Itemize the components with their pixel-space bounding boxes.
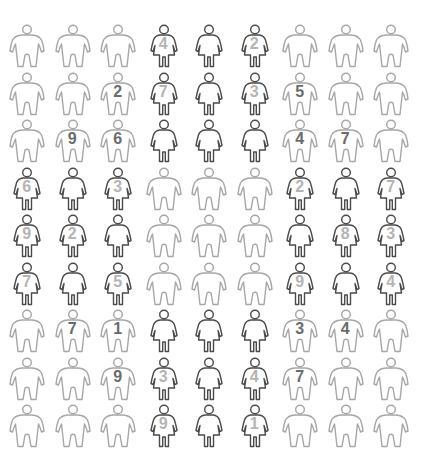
figure-number: 7: [4, 274, 50, 290]
female-figure-numbered: 6: [4, 165, 50, 213]
male-figure-numbered: 2: [95, 70, 141, 118]
female-figure-numbered: 4: [368, 260, 414, 308]
female-figure-numbered: 7: [368, 165, 414, 213]
figure-number: 6: [95, 131, 141, 147]
female-figure: [186, 307, 232, 355]
female-figure: [323, 165, 369, 213]
male-figure: [186, 165, 232, 213]
female-figure-numbered: 3: [368, 212, 414, 260]
male-figure: [4, 307, 50, 355]
male-figure: [50, 70, 96, 118]
male-figure: [323, 402, 369, 450]
male-figure: [277, 402, 323, 450]
female-figure: [95, 212, 141, 260]
male-figure: [4, 402, 50, 450]
female-figure-numbered: 7: [141, 70, 187, 118]
female-figure: [50, 260, 96, 308]
male-figure: [4, 355, 50, 403]
female-figure-numbered: 3: [95, 165, 141, 213]
figure-number: 8: [323, 226, 369, 242]
male-figure: [186, 212, 232, 260]
figure-number: 9: [50, 131, 96, 147]
figure-number: 3: [141, 369, 187, 385]
male-figure-numbered: 1: [95, 307, 141, 355]
male-figure-numbered: 4: [323, 307, 369, 355]
figure-number: 4: [277, 131, 323, 147]
female-figure-numbered: 4: [141, 22, 187, 70]
female-figure-numbered: 3: [232, 70, 278, 118]
male-figure-numbered: 7: [50, 307, 96, 355]
male-figure: [368, 307, 414, 355]
male-figure: [50, 355, 96, 403]
male-figure-numbered: 9: [50, 117, 96, 165]
male-figure: [323, 22, 369, 70]
male-figure-numbered: 4: [277, 117, 323, 165]
figure-number: 7: [323, 131, 369, 147]
male-figure: [4, 22, 50, 70]
female-figure: [186, 117, 232, 165]
female-figure-numbered: 2: [50, 212, 96, 260]
figure-number: 7: [50, 321, 96, 337]
female-figure-numbered: 2: [277, 165, 323, 213]
figure-number: 5: [95, 274, 141, 290]
male-figure: [232, 260, 278, 308]
male-figure: [186, 260, 232, 308]
female-figure: [186, 22, 232, 70]
figure-number: 3: [95, 179, 141, 195]
male-figure: [50, 402, 96, 450]
male-figure: [95, 402, 141, 450]
figure-number: 4: [323, 321, 369, 337]
female-figure: [50, 165, 96, 213]
female-figure-numbered: 3: [141, 355, 187, 403]
figure-number: 3: [368, 226, 414, 242]
female-figure: [323, 260, 369, 308]
male-figure: [232, 212, 278, 260]
male-figure: [4, 70, 50, 118]
male-figure: [277, 22, 323, 70]
male-figure: [50, 22, 96, 70]
male-figure-numbered: 5: [277, 70, 323, 118]
female-figure: [186, 402, 232, 450]
female-figure-numbered: 9: [4, 212, 50, 260]
female-figure-numbered: 7: [4, 260, 50, 308]
figure-number: 7: [141, 84, 187, 100]
figure-number: 2: [232, 36, 278, 52]
male-figure: [141, 260, 187, 308]
male-figure: [95, 22, 141, 70]
female-figure-numbered: 1: [232, 402, 278, 450]
figure-number: 9: [277, 274, 323, 290]
female-figure: [232, 307, 278, 355]
figure-number: 3: [232, 84, 278, 100]
figure-number: 4: [141, 36, 187, 52]
male-figure-numbered: 9: [95, 355, 141, 403]
female-figure-numbered: 8: [323, 212, 369, 260]
male-figure: [368, 402, 414, 450]
figure-number: 3: [277, 321, 323, 337]
figure-number: 4: [368, 274, 414, 290]
female-figure: [186, 355, 232, 403]
female-figure: [186, 70, 232, 118]
female-figure: [141, 117, 187, 165]
figure-number: 9: [95, 369, 141, 385]
figure-number: 2: [50, 226, 96, 242]
female-figure: [232, 117, 278, 165]
figure-number: 9: [141, 416, 187, 432]
female-figure-numbered: 9: [141, 402, 187, 450]
male-figure: [323, 355, 369, 403]
figure-number: 1: [232, 416, 278, 432]
female-figure-numbered: 2: [232, 22, 278, 70]
figure-number: 5: [277, 84, 323, 100]
male-figure: [141, 212, 187, 260]
male-figure-numbered: 3: [277, 307, 323, 355]
male-figure: [368, 355, 414, 403]
figure-number: 7: [277, 369, 323, 385]
male-figure-numbered: 6: [95, 117, 141, 165]
female-figure-numbered: 4: [232, 355, 278, 403]
female-figure-numbered: 9: [277, 260, 323, 308]
male-figure-numbered: 7: [277, 355, 323, 403]
figure-number: 7: [368, 179, 414, 195]
figure-number: 9: [4, 226, 50, 242]
figure-number: 4: [232, 369, 278, 385]
male-figure-numbered: 7: [323, 117, 369, 165]
figure-number: 1: [95, 321, 141, 337]
